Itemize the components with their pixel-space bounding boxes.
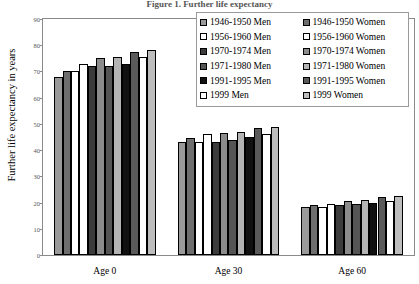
legend-swatch-icon [200,19,207,26]
bar [335,205,343,255]
legend-item-label: 1971-1980 Women [313,61,386,71]
legend-women-item[interactable]: 1991-1995 Women [303,73,406,88]
chart-legend: 1946-1950 Men1956-1960 Men1970-1974 Men1… [196,12,409,107]
legend-men-item[interactable]: 1971-1980 Men [200,59,303,74]
legend-item-label: 1956-1960 Men [210,32,271,42]
legend-men-item[interactable]: 1970-1974 Men [200,44,303,59]
bar [394,196,402,255]
bar [96,58,104,255]
legend-swatch-icon [200,77,207,84]
bar [369,203,377,255]
bar [254,128,262,255]
bar [139,57,147,255]
legend-column-women: 1946-1950 Women1956-1960 Women1970-1974 … [303,15,406,103]
chart-figure: Figure 1. Further life expectancy Furthe… [0,0,419,284]
legend-swatch-icon [200,92,207,99]
bar [54,77,62,255]
legend-item-label: 1971-1980 Men [210,61,271,71]
bar [195,142,203,255]
legend-item-label: 1956-1960 Women [313,32,386,42]
legend-column-men: 1946-1950 Men1956-1960 Men1970-1974 Men1… [200,15,303,103]
bar [228,140,236,255]
x-axis-category-label: Age 30 [167,266,291,276]
legend-item-label: 1999 Women [313,90,364,100]
legend-item-label: 1991-1995 Men [210,76,271,86]
legend-item-label: 1970-1974 Men [210,46,271,56]
bar [352,204,360,255]
legend-swatch-icon [200,63,207,70]
bar [203,134,211,255]
legend-swatch-icon [303,33,310,40]
bar [122,64,130,255]
bar [220,133,228,255]
legend-swatch-icon [303,48,310,55]
legend-women-item[interactable]: 1999 Women [303,88,406,103]
bar [147,50,155,255]
bar [262,134,270,255]
bar [212,142,220,255]
legend-men-item[interactable]: 1956-1960 Men [200,30,303,45]
legend-swatch-icon [200,33,207,40]
legend-item-label: 1946-1950 Men [210,17,271,27]
bar [130,52,138,255]
legend-women-item[interactable]: 1970-1974 Women [303,44,406,59]
bar [79,64,87,255]
bar [310,205,318,255]
legend-swatch-icon [303,63,310,70]
bar-group: Age 0 [43,19,167,255]
bar [63,71,71,255]
bar [245,137,253,255]
bar [301,207,309,256]
bar [271,127,279,255]
legend-swatch-icon [200,48,207,55]
bar [318,207,326,256]
y-axis-label: Further life expectancy in years [6,25,20,205]
x-axis-category-label: Age 0 [43,266,167,276]
bar [186,138,194,255]
bar [386,201,394,255]
legend-men-item[interactable]: 1991-1995 Men [200,73,303,88]
bar [327,204,335,255]
bar [88,66,96,255]
legend-swatch-icon [303,77,310,84]
bar [361,200,369,255]
legend-women-item[interactable]: 1956-1960 Women [303,30,406,45]
legend-swatch-icon [303,92,310,99]
x-axis-category-label: Age 60 [290,266,414,276]
legend-women-item[interactable]: 1971-1980 Women [303,59,406,74]
legend-men-item[interactable]: 1999 Men [200,88,303,103]
bar [71,71,79,255]
legend-item-label: 1970-1974 Women [313,46,386,56]
bar [178,142,186,255]
legend-women-item[interactable]: 1946-1950 Women [303,15,406,30]
legend-item-label: 1946-1950 Women [313,17,386,27]
bar [378,197,386,255]
chart-title: Figure 1. Further life expectancy [0,0,419,9]
bar [113,57,121,255]
legend-swatch-icon [303,19,310,26]
bar [344,201,352,255]
legend-men-item[interactable]: 1946-1950 Men [200,15,303,30]
bar [237,132,245,255]
y-axis-tick-mark [40,255,43,256]
bar [105,66,113,255]
legend-item-label: 1999 Men [210,90,249,100]
legend-item-label: 1991-1995 Women [313,76,386,86]
